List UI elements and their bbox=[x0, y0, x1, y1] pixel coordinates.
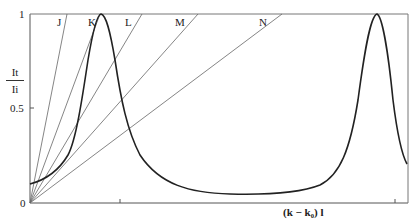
y-tick-label-05: 0.5 bbox=[10, 103, 24, 114]
line-J bbox=[30, 14, 67, 203]
radial-lines bbox=[30, 14, 282, 203]
transmission-curve bbox=[30, 14, 407, 194]
line-N bbox=[30, 14, 282, 203]
line-K bbox=[30, 14, 100, 203]
line-label-N: N bbox=[259, 17, 267, 28]
y-label-numerator: It bbox=[6, 66, 24, 81]
line-label-K: K bbox=[88, 17, 96, 28]
line-L bbox=[30, 14, 142, 203]
y-tick-label-0: 0 bbox=[20, 198, 26, 209]
chart-plot bbox=[0, 0, 419, 224]
x-axis-label: (k − k₀) l bbox=[283, 206, 323, 218]
line-label-J: J bbox=[57, 17, 61, 28]
line-label-M: M bbox=[175, 17, 185, 28]
line-label-L: L bbox=[125, 17, 132, 28]
line-M bbox=[30, 14, 198, 203]
y-axis-label: It Ii bbox=[6, 66, 24, 95]
y-label-denominator: Ii bbox=[6, 81, 24, 95]
y-tick-label-1: 1 bbox=[19, 9, 25, 20]
